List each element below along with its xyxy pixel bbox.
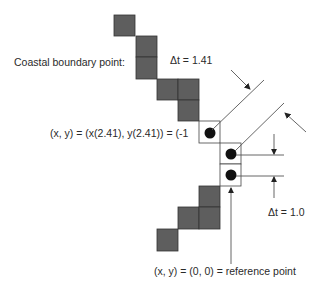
land-cell [114,15,135,36]
land-cell [199,186,220,207]
coastal-boundary-label: Coastal boundary point: [14,56,125,68]
land-cell [157,79,178,100]
reference-point-label: (x, y) = (0, 0) = reference point [154,265,296,277]
diagonal-line-upper [212,80,264,130]
land-cells-upper [114,15,199,121]
land-cell [157,229,178,251]
land-cells-lower [157,186,220,251]
boundary-point-marker [226,149,237,160]
boundary-point-marker [205,128,216,139]
diagram-canvas: Coastal boundary point: (x, y) = (x(2.41… [0,0,317,289]
delta-t-vertical-label: Δt = 1.0 [268,206,305,218]
reference-point-marker [226,170,237,181]
boundary-coordinate-label: (x, y) = (x(2.41), y(2.41)) = (-1 [50,127,188,139]
land-cell [178,79,199,100]
land-cell [136,57,157,79]
diagonal-line-lower [235,103,284,151]
delta-t-diagonal-label: Δt = 1.41 [170,54,212,66]
boundary-cells [199,121,241,186]
land-cell [178,100,199,121]
diagonal-arrow-in [231,70,250,89]
land-cell [199,207,220,229]
land-cell [136,36,157,57]
diagonal-arrow-out [285,113,306,132]
land-cell [178,207,199,229]
